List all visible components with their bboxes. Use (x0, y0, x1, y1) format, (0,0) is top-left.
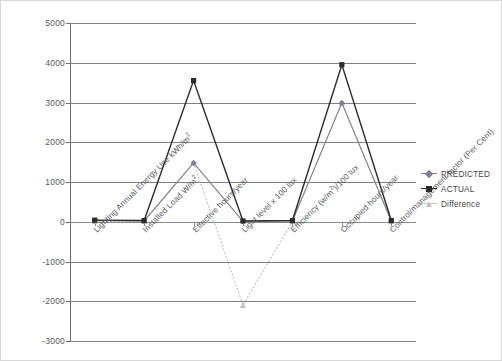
series-difference (92, 100, 395, 308)
data-point-marker (339, 62, 344, 67)
y-tick-mark (66, 341, 70, 342)
y-tick-label: -3000 (42, 336, 65, 346)
chart-legend: PREDICTEDACTUALDifference (421, 167, 501, 212)
data-point-marker (240, 218, 245, 223)
plot-area (70, 23, 416, 341)
chart-figure: 500040003000200010000-1000-2000-3000 Lig… (0, 0, 502, 361)
y-tick-label: 3000 (45, 98, 65, 108)
y-tick-mark (66, 301, 70, 302)
legend-item-difference[interactable]: Difference (421, 197, 501, 211)
y-tick-label: -2000 (42, 296, 65, 306)
series-actual (92, 62, 394, 223)
series-predicted (92, 100, 395, 225)
series-line (95, 65, 392, 221)
data-point-marker (92, 218, 97, 223)
y-tick-mark (66, 182, 70, 183)
y-tick-label: 5000 (45, 18, 65, 28)
y-tick-mark (66, 142, 70, 143)
series-line (95, 103, 392, 305)
legend-label: PREDICTED (441, 170, 490, 179)
y-tick-label: 1000 (45, 177, 65, 187)
y-tick-mark (66, 262, 70, 263)
y-tick-label: 2000 (45, 137, 65, 147)
y-tick-label: 4000 (45, 58, 65, 68)
legend-swatch-icon (421, 168, 437, 180)
y-tick-label: 0 (60, 217, 65, 227)
legend-item-predicted[interactable]: PREDICTED (421, 167, 501, 181)
legend-item-actual[interactable]: ACTUAL (421, 182, 501, 196)
data-point-marker (191, 78, 196, 83)
legend-swatch-icon (421, 183, 437, 195)
y-tick-label: -1000 (42, 257, 65, 267)
gridline--3000 (70, 341, 416, 342)
data-point-marker (389, 218, 394, 223)
series-lines (70, 23, 416, 341)
y-tick-mark (66, 63, 70, 64)
data-point-marker (142, 218, 147, 223)
series-line (95, 103, 392, 221)
y-axis-tick-labels: 500040003000200010000-1000-2000-3000 (1, 23, 65, 341)
legend-swatch-icon (421, 198, 437, 210)
legend-label: ACTUAL (441, 185, 475, 194)
y-tick-mark (66, 103, 70, 104)
y-tick-mark (66, 222, 70, 223)
data-point-marker (290, 218, 295, 223)
data-point-marker (240, 302, 246, 308)
y-tick-mark (66, 23, 70, 24)
legend-label: Difference (441, 200, 480, 209)
